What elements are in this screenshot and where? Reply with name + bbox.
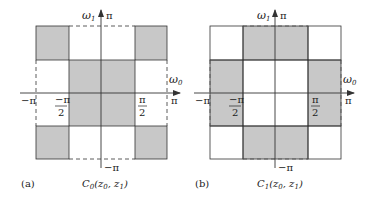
cell <box>135 26 167 60</box>
panel-a: ω1 π ω0 π −π −π −π 2 π 2 (a) C0(z0, z1) <box>20 9 183 191</box>
pi-right-label: π <box>171 95 178 106</box>
omega1-label: ω1 <box>82 9 95 23</box>
omega0-label: ω0 <box>169 73 183 87</box>
cell <box>36 126 69 159</box>
caption-b: C1(z0, z1) <box>257 178 303 191</box>
svg-text:−π: −π <box>229 94 244 105</box>
shaded-regions-a <box>36 26 167 159</box>
pi-right-label: π <box>345 95 352 106</box>
pi-top-label: π <box>106 10 113 21</box>
pos-half-pi-label: π 2 <box>138 94 147 118</box>
omega1-label: ω1 <box>257 9 270 23</box>
panel-b: ω1 π ω0 π −π −π −π 2 π 2 (b) C1(z0, z1) <box>194 9 357 191</box>
panel-tag-b: (b) <box>195 178 209 189</box>
shaded-regions-b <box>210 26 341 159</box>
svg-text:π: π <box>139 94 146 105</box>
svg-text:2: 2 <box>232 107 238 118</box>
omega0-label: ω0 <box>343 73 357 87</box>
neg-pi-bottom-label: −π <box>104 162 119 173</box>
frequency-partition-figure: ω1 π ω0 π −π −π −π 2 π 2 (a) C0(z0, z1) <box>0 0 370 198</box>
neg-pi-bottom-label: −π <box>278 162 293 173</box>
svg-text:2: 2 <box>312 107 318 118</box>
neg-pi-left-label: −π <box>195 95 210 106</box>
panel-tag-a: (a) <box>21 178 35 189</box>
svg-text:−π: −π <box>55 94 70 105</box>
neg-pi-left-label: −π <box>21 95 36 106</box>
cell <box>243 26 308 60</box>
svg-text:2: 2 <box>139 107 145 118</box>
neg-half-pi-label: −π 2 <box>55 94 70 118</box>
cell <box>135 126 167 159</box>
cell <box>243 126 308 159</box>
caption-a: C0(z0, z1) <box>82 178 128 191</box>
pi-top-label: π <box>280 10 287 21</box>
svg-text:2: 2 <box>58 107 64 118</box>
cell <box>36 26 69 60</box>
svg-text:π: π <box>312 94 319 105</box>
